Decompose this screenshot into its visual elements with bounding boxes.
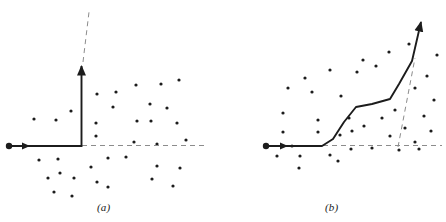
scatter-point — [281, 111, 284, 114]
scatter-point — [338, 133, 341, 136]
scatter-point — [417, 147, 420, 150]
scatter-point — [149, 119, 152, 122]
scatter-point — [155, 164, 158, 167]
panel-a-scatter-points — [32, 78, 187, 197]
scatter-point — [72, 176, 75, 179]
scatter-point — [387, 50, 390, 53]
panel-b-caption: (b) — [325, 201, 338, 213]
panel-a-caption: (a) — [97, 201, 110, 213]
scatter-point — [286, 86, 289, 89]
scatter-point — [32, 117, 35, 120]
scatter-point — [361, 58, 364, 61]
scatter-point — [413, 140, 416, 143]
scatter-point — [69, 109, 72, 112]
panel-a-vector-path — [9, 66, 82, 146]
scatter-point — [339, 94, 342, 97]
scatter-point — [134, 83, 137, 86]
scatter-point — [106, 156, 109, 159]
scatter-point — [362, 124, 365, 127]
scatter-point — [89, 165, 92, 168]
scatter-point — [106, 185, 109, 188]
scatter-point — [58, 171, 61, 174]
scatter-point — [52, 190, 55, 193]
scatter-point — [297, 166, 300, 169]
scatter-point — [349, 147, 352, 150]
scatter-point — [165, 106, 168, 109]
panel-a-start-marker — [6, 143, 12, 149]
scatter-point — [46, 176, 49, 179]
scatter-point — [159, 82, 162, 85]
scatter-point — [316, 130, 319, 133]
scatter-point — [95, 180, 98, 183]
scatter-point — [70, 194, 73, 197]
scatter-point — [94, 134, 97, 137]
scatter-point — [328, 153, 331, 156]
scatter-point — [393, 108, 396, 111]
scatter-point — [184, 138, 187, 141]
dashed-guide-line — [83, 12, 89, 62]
panel-a-group — [6, 12, 205, 198]
scatter-point — [370, 146, 373, 149]
panel-a-dashed-axes — [82, 12, 205, 146]
scatter-point — [355, 70, 358, 73]
scatter-point — [336, 159, 339, 162]
scatter-point — [380, 116, 383, 119]
scatter-point — [178, 166, 181, 169]
scatter-point — [388, 134, 391, 137]
scatter-point — [135, 119, 138, 122]
scatter-point — [374, 64, 377, 67]
scatter-point — [95, 92, 98, 95]
scatter-point — [111, 105, 114, 108]
scatter-point — [171, 184, 174, 187]
panel-b-horizontal-arrowhead — [280, 142, 288, 149]
scatter-point — [177, 78, 180, 81]
figure-canvas — [0, 0, 446, 222]
scatter-point — [124, 155, 127, 158]
scatter-point — [281, 130, 284, 133]
scatter-point — [175, 121, 178, 124]
scatter-point — [397, 148, 400, 151]
scatter-point — [328, 68, 331, 71]
scatter-point — [310, 90, 313, 93]
scatter-point — [132, 140, 135, 143]
panel-b-group — [263, 22, 442, 170]
scatter-point — [435, 53, 438, 56]
scatter-point — [350, 129, 353, 132]
scatter-point — [37, 158, 40, 161]
scatter-point — [413, 86, 416, 89]
scatter-point — [275, 154, 278, 157]
scatter-point — [403, 126, 406, 129]
scatter-point — [54, 118, 57, 121]
scatter-point — [150, 177, 153, 180]
panel-b-vector-path — [266, 22, 421, 146]
scatter-point — [114, 90, 117, 93]
scatter-point — [56, 157, 59, 160]
scatter-point — [303, 76, 306, 79]
scatter-point — [148, 102, 151, 105]
panel-a-horizontal-arrowhead — [22, 142, 30, 149]
scatter-point — [429, 129, 432, 132]
scatter-point — [425, 74, 428, 77]
figure-root: (a) (b) — [0, 0, 446, 222]
scatter-point — [432, 98, 435, 101]
panel-b-start-marker — [263, 143, 269, 149]
scatter-point — [422, 114, 425, 117]
scatter-point — [94, 121, 97, 124]
scatter-point — [298, 154, 301, 157]
scatter-point — [407, 42, 410, 45]
scatter-point — [316, 118, 319, 121]
